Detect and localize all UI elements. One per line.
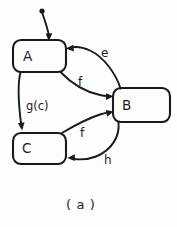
figure-caption: ( a ) [66, 197, 95, 212]
transition-g-ac-path[interactable] [19, 73, 22, 125]
transition-e-group[interactable] [66, 45, 121, 89]
state-b-label: B [122, 97, 131, 113]
initial-transition-group [39, 8, 52, 41]
initial-transition-arrow [43, 14, 49, 36]
state-c-box[interactable] [13, 133, 66, 164]
transition-f-cb-label: f [80, 126, 85, 140]
state-node-a[interactable]: A [13, 40, 66, 72]
transition-e-label: e [101, 46, 108, 60]
transition-f-cb-group[interactable] [61, 110, 114, 133]
transition-h-bc-arrowhead [67, 154, 75, 161]
state-a-box[interactable] [13, 40, 66, 72]
transition-f-cb-path[interactable] [61, 112, 108, 133]
transition-g-ac-label: g(c) [26, 99, 49, 113]
state-diagram-canvas: A B C [0, 0, 177, 227]
figure-container: A B C [0, 0, 177, 227]
transition-f-ab-label: f [78, 75, 83, 89]
transition-g-ac-group[interactable] [18, 73, 25, 131]
state-c-label: C [22, 140, 31, 156]
state-a-label: A [23, 48, 33, 64]
transition-f-ab-path[interactable] [61, 73, 108, 97]
transition-h-bc-label: h [104, 153, 112, 167]
transition-f-ab-group[interactable] [61, 73, 114, 100]
state-node-b[interactable]: B [113, 88, 170, 122]
transition-g-ac-arrowhead [18, 122, 25, 130]
state-node-c[interactable]: C [13, 133, 66, 164]
